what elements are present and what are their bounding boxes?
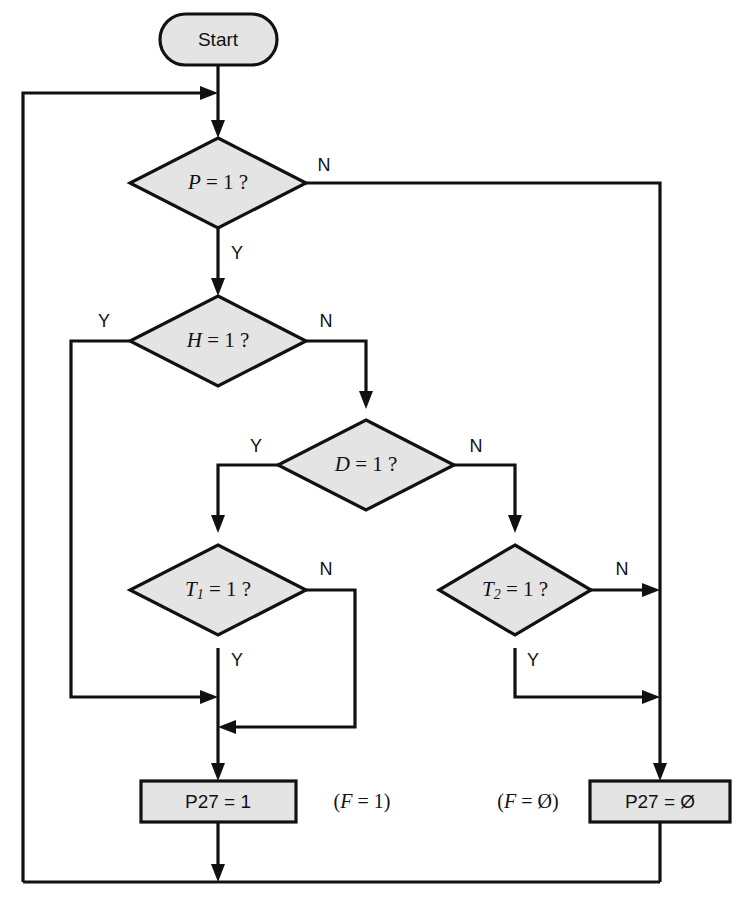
branch-label-t1-yes: Y [231,650,243,670]
node-decision-h[interactable]: H = 1 ? [130,296,306,386]
decision-t1-subscript: 1 [197,587,204,602]
process-p27-zero-label: P27 = Ø [625,791,695,812]
annotation-f-one-rest: = 1) [352,790,390,813]
arrowhead-t2-no [642,583,660,597]
edge-h-yes [71,341,210,697]
branch-label-d-no: N [470,436,483,456]
decision-t2-label: T2 = 1 ? [482,577,548,602]
node-process-p27-zero[interactable]: P27 = Ø [590,781,730,822]
flowchart-canvas: Start P = 1 ? N Y H = 1 ? Y N D = 1 ? Y [0,0,739,904]
branch-label-t2-no: N [616,559,629,579]
decision-p-rel: = 1 ? [201,170,248,194]
decision-t2-rel: = 1 ? [501,577,548,601]
flowchart-svg: Start P = 1 ? N Y H = 1 ? Y N D = 1 ? Y [0,0,739,904]
node-decision-d[interactable]: D = 1 ? [278,420,454,510]
decision-d-label: D = 1 ? [334,452,398,476]
node-decision-p[interactable]: P = 1 ? [130,138,306,228]
decision-p-var: P [187,170,201,194]
decision-d-rel: = 1 ? [350,452,397,476]
branch-label-d-yes: Y [250,436,262,456]
decision-d-var: D [334,452,350,476]
arrowhead-p-no-to-p27zero [653,763,667,781]
arrowhead-start-to-p [211,120,225,138]
branch-label-t2-yes: Y [527,650,539,670]
branch-label-p-no: N [318,155,331,175]
node-decision-t2[interactable]: T2 = 1 ? [439,545,591,635]
decision-h-rel: = 1 ? [202,328,249,352]
arrowhead-d-no [508,515,522,533]
decision-t2-subscript: 2 [494,587,501,602]
arrowhead-t1-yes-to-p27one [211,763,225,781]
arrowhead-h-yes-merge [200,690,218,704]
start-label: Start [198,29,239,50]
branch-label-t1-no: N [320,559,333,579]
arrowhead-h-no [359,391,373,409]
node-decision-t1[interactable]: T1 = 1 ? [130,545,306,635]
decision-h-label: H = 1 ? [186,328,250,352]
annotation-f-one-var: F [339,790,353,812]
annotation-f-zero-rest: = Ø) [516,790,558,813]
node-start[interactable]: Start [160,14,277,65]
branch-label-h-yes: Y [98,311,110,331]
arrowhead-d-yes [211,515,225,533]
arrowhead-outer-loop [200,86,218,100]
decision-t1-label: T1 = 1 ? [185,577,251,602]
branch-label-h-no: N [320,311,333,331]
edge-d-yes [218,465,278,524]
process-p27-one-label: P27 = 1 [185,791,251,812]
arrowhead-t2-yes-merge [642,690,660,704]
annotation-f-equals-one: (F = 1) [334,790,391,813]
annotation-f-zero-var: F [503,790,517,812]
arrowhead-p-yes [211,278,225,296]
decision-t1-rel: = 1 ? [204,577,251,601]
edge-h-no [306,341,366,400]
annotation-f-equals-zero: (F = Ø) [497,790,558,813]
arrowhead-t1-no-merge [218,720,236,734]
decision-p-label: P = 1 ? [187,170,248,194]
branch-label-p-yes: Y [231,243,243,263]
arrowhead-p27one-to-bottom [211,864,225,882]
edge-d-no [454,465,515,524]
node-process-p27-one[interactable]: P27 = 1 [141,781,296,822]
